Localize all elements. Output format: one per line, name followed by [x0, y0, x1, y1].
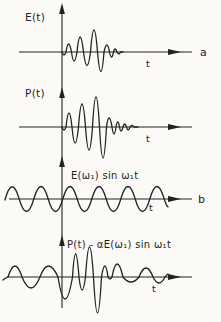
panel-p: P(t) t	[19, 87, 192, 158]
right-arrow-icon	[168, 124, 181, 130]
time-axis-label: t	[149, 202, 153, 213]
panel-a: E(t) t a	[19, 11, 207, 72]
up-arrow-icon	[59, 235, 65, 246]
panel-letter-b: b	[198, 193, 205, 206]
right-arrow-icon	[168, 49, 181, 55]
signal-label-difference: P(t) - αE(ω₁) sin ω₁t	[67, 239, 171, 250]
wave-packet-e-curve	[62, 30, 123, 72]
signal-label-p: P(t)	[25, 87, 45, 99]
signal-label-e: E(t)	[25, 11, 45, 23]
up-arrow-icon	[59, 3, 65, 14]
right-arrow-icon	[168, 196, 181, 202]
up-arrow-icon	[59, 87, 65, 98]
right-arrow-icon	[168, 274, 181, 280]
up-arrow-icon	[59, 156, 65, 167]
time-axis-label: t	[146, 58, 150, 69]
panel-d: P(t) - αE(ω₁) sin ω₁t t	[3, 239, 192, 313]
time-axis-label: t	[146, 133, 150, 144]
waveform-diagram-svg: E(t) t a P(t) t E(ω₁) sin ω₁t t b P(t) -	[0, 0, 221, 322]
signal-label-sine: E(ω₁) sin ω₁t	[71, 170, 138, 181]
time-axis-label: t	[152, 283, 156, 294]
waveform-figure: E(t) t a P(t) t E(ω₁) sin ω₁t t b P(t) -	[0, 0, 221, 322]
panel-b: E(ω₁) sin ω₁t t b	[5, 170, 205, 213]
difference-burst-curve	[3, 247, 168, 313]
panel-letter-a: a	[200, 46, 207, 59]
